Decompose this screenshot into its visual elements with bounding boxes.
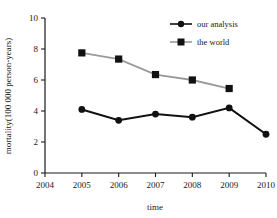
- data-point-square: [78, 49, 85, 56]
- y-tick-label: 0: [34, 168, 39, 178]
- legend-item-the-world: the world: [170, 37, 230, 47]
- data-point-square: [115, 55, 122, 62]
- x-axis-ticks: 2004200520062007200820092010: [36, 173, 276, 190]
- legend-marker-square-icon: [178, 39, 185, 46]
- x-tick-label: 2008: [183, 180, 202, 190]
- legend-marker-circle-icon: [178, 21, 184, 27]
- line-chart: 0246810 2004200520062007200820092010 mor…: [0, 0, 277, 218]
- x-axis-title: time: [147, 202, 163, 212]
- data-point-circle: [189, 114, 196, 121]
- series-the-world: [78, 49, 233, 92]
- legend-item-our-analysis: our analysis: [170, 19, 238, 29]
- data-point-square: [152, 71, 159, 78]
- x-tick-label: 2006: [110, 180, 129, 190]
- y-tick-label: 4: [34, 106, 39, 116]
- x-tick-label: 2007: [147, 180, 166, 190]
- data-point-circle: [263, 131, 270, 138]
- chart-container: 0246810 2004200520062007200820092010 mor…: [0, 0, 277, 218]
- data-point-circle: [226, 105, 233, 112]
- y-tick-label: 10: [29, 13, 39, 23]
- series-line: [82, 53, 229, 89]
- y-axis-title: mortality(100 000 person-years): [3, 38, 13, 154]
- data-point-circle: [78, 106, 85, 113]
- series-our-analysis: [78, 105, 269, 138]
- y-tick-label: 8: [34, 44, 39, 54]
- chart-legend: our analysis the world: [170, 19, 238, 47]
- x-tick-label: 2010: [257, 180, 276, 190]
- legend-label-the-world: the world: [197, 37, 230, 47]
- y-axis-ticks: 0246810: [29, 13, 45, 178]
- series-layer: [78, 49, 269, 137]
- x-tick-label: 2005: [73, 180, 92, 190]
- y-tick-label: 6: [34, 75, 39, 85]
- series-line: [82, 108, 266, 134]
- data-point-circle: [115, 117, 122, 124]
- data-point-square: [226, 85, 233, 92]
- x-tick-label: 2004: [36, 180, 55, 190]
- data-point-square: [189, 76, 196, 83]
- y-tick-label: 2: [34, 137, 39, 147]
- x-tick-label: 2009: [220, 180, 239, 190]
- data-point-circle: [152, 111, 159, 118]
- legend-label-our-analysis: our analysis: [197, 19, 238, 29]
